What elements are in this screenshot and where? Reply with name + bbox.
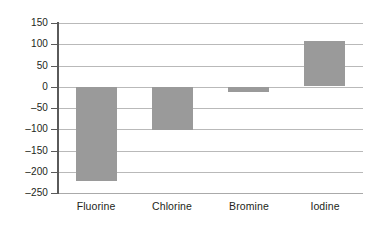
y-tick-label: –250 <box>4 188 48 198</box>
y-tick-label: 0 <box>4 82 48 92</box>
y-tick-mark <box>51 87 58 88</box>
y-tick-label: –200 <box>4 167 48 177</box>
y-tick-mark <box>51 44 58 45</box>
bar <box>228 87 269 92</box>
bar <box>304 41 345 86</box>
y-tick-label-wrap: –150 <box>0 146 48 156</box>
bar-chart: 150100500–50–100–150–200–250 FluorineChl… <box>0 0 375 227</box>
x-tick-label: Bromine <box>211 200 287 212</box>
bar <box>152 87 193 130</box>
y-tick-label-wrap: –250 <box>0 188 48 198</box>
y-tick-mark <box>51 172 58 173</box>
y-tick-label-wrap: 50 <box>0 61 48 71</box>
y-tick-label-wrap: –200 <box>0 167 48 177</box>
y-tick-mark <box>51 151 58 152</box>
x-tick-label: Iodine <box>287 200 363 212</box>
y-tick-label: –50 <box>4 103 48 113</box>
y-tick-label: –100 <box>4 124 48 134</box>
gridline <box>58 193 363 194</box>
y-tick-label: 150 <box>4 18 48 28</box>
bar <box>76 87 117 181</box>
y-tick-label: 100 <box>4 39 48 49</box>
y-tick-mark <box>51 108 58 109</box>
y-tick-label: 50 <box>4 61 48 71</box>
y-tick-mark <box>51 129 58 130</box>
y-tick-label-wrap: 100 <box>0 39 48 49</box>
y-tick-label-wrap: –100 <box>0 124 48 134</box>
y-tick-mark <box>51 66 58 67</box>
x-tick-label: Fluorine <box>58 200 134 212</box>
y-tick-mark <box>51 193 58 194</box>
y-tick-label: –150 <box>4 146 48 156</box>
y-tick-label-wrap: 0 <box>0 82 48 92</box>
y-tick-label-wrap: –50 <box>0 103 48 113</box>
y-tick-label-wrap: 150 <box>0 18 48 28</box>
x-tick-label: Chlorine <box>134 200 210 212</box>
gridline <box>58 23 363 24</box>
y-tick-mark <box>51 23 58 24</box>
